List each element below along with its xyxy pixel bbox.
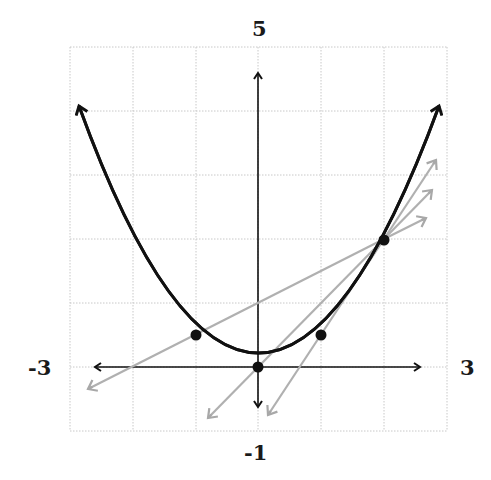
point-2: [379, 235, 390, 246]
y-min-label: -1: [244, 440, 267, 465]
secant-lines: [88, 160, 436, 418]
y-max-label: 5: [252, 16, 267, 41]
x-max-label: 3: [460, 355, 475, 380]
point-origin: [253, 362, 264, 373]
point-neg1: [191, 330, 202, 341]
x-min-label: -3: [28, 355, 51, 380]
plot-area: [0, 0, 491, 480]
point-1: [316, 330, 327, 341]
axes: [95, 73, 420, 407]
